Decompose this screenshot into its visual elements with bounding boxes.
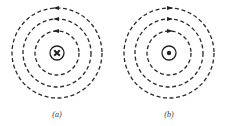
arrow-left-icon xyxy=(53,6,59,10)
panel-a-current-into-page xyxy=(12,6,102,98)
panel-b-caption: (b) xyxy=(154,110,184,119)
arrow-right-icon xyxy=(167,17,173,21)
arrow-right-icon xyxy=(167,6,173,10)
arrow-left-icon xyxy=(53,29,59,33)
magnetic-field-diagram xyxy=(0,0,225,126)
dot-out-of-page-icon xyxy=(167,51,171,55)
panel-b-current-out-of-page xyxy=(124,6,214,98)
arrow-left-icon xyxy=(53,17,59,21)
cross-into-page-icon xyxy=(54,50,60,56)
arrow-right-icon xyxy=(167,29,173,33)
panel-a-caption: (a) xyxy=(42,110,72,119)
